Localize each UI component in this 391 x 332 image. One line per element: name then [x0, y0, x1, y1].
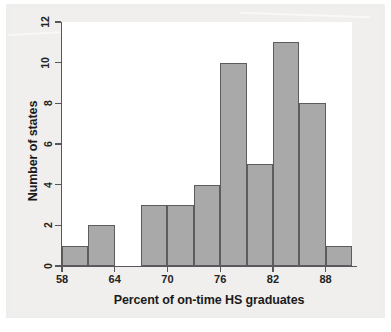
x-axis-tick-label: 88 — [320, 274, 332, 285]
histogram-bar — [167, 205, 193, 266]
y-axis-tick: 6 — [55, 143, 61, 144]
y-axis-tick-label: 10 — [40, 57, 51, 69]
y-axis-tick: 0 — [55, 265, 61, 266]
x-axis-tick-label: 82 — [267, 274, 279, 285]
histogram-bar — [62, 246, 88, 266]
x-axis-tick — [114, 266, 115, 272]
y-axis-tick-label: 12 — [40, 16, 51, 28]
y-axis-tick: 2 — [55, 225, 61, 226]
y-axis-title: Number of states — [26, 71, 40, 231]
x-axis-title: Percent of on-time HS graduates — [61, 293, 357, 307]
histogram-bar — [141, 205, 167, 266]
x-axis-tick-label: 70 — [161, 274, 173, 285]
x-axis-tick-label: 76 — [214, 274, 226, 285]
y-axis-tick-label: 8 — [43, 100, 54, 106]
histogram-bar — [88, 225, 114, 266]
x-axis-tick — [220, 266, 221, 272]
y-axis-tick-label: 0 — [43, 263, 54, 269]
y-axis-tick: 12 — [55, 21, 61, 22]
y-axis-tick-label: 4 — [43, 182, 54, 188]
x-axis-tick-label: 64 — [109, 274, 121, 285]
x-axis-tick — [272, 266, 273, 272]
y-axis-tick: 10 — [55, 62, 61, 63]
histogram-bars — [62, 22, 352, 266]
x-axis-tick-label: 58 — [56, 274, 68, 285]
x-axis-tick — [61, 266, 62, 272]
y-axis-tick-label: 6 — [43, 141, 54, 147]
histogram-figure: 024681012 586470768288 Percent of on-tim… — [0, 0, 391, 332]
y-axis-tick: 4 — [55, 184, 61, 185]
histogram-bar — [194, 185, 220, 266]
histogram-bar — [299, 103, 325, 266]
histogram-bar — [220, 63, 246, 266]
histogram-bar — [247, 164, 273, 266]
histogram-bar — [326, 246, 352, 266]
x-axis-tick — [325, 266, 326, 272]
x-axis-tick — [167, 266, 168, 272]
histogram-bar — [273, 42, 299, 266]
y-axis-tick-label: 2 — [43, 222, 54, 228]
figure-page: 024681012 586470768288 Percent of on-tim… — [0, 0, 391, 332]
y-axis-tick: 8 — [55, 103, 61, 104]
